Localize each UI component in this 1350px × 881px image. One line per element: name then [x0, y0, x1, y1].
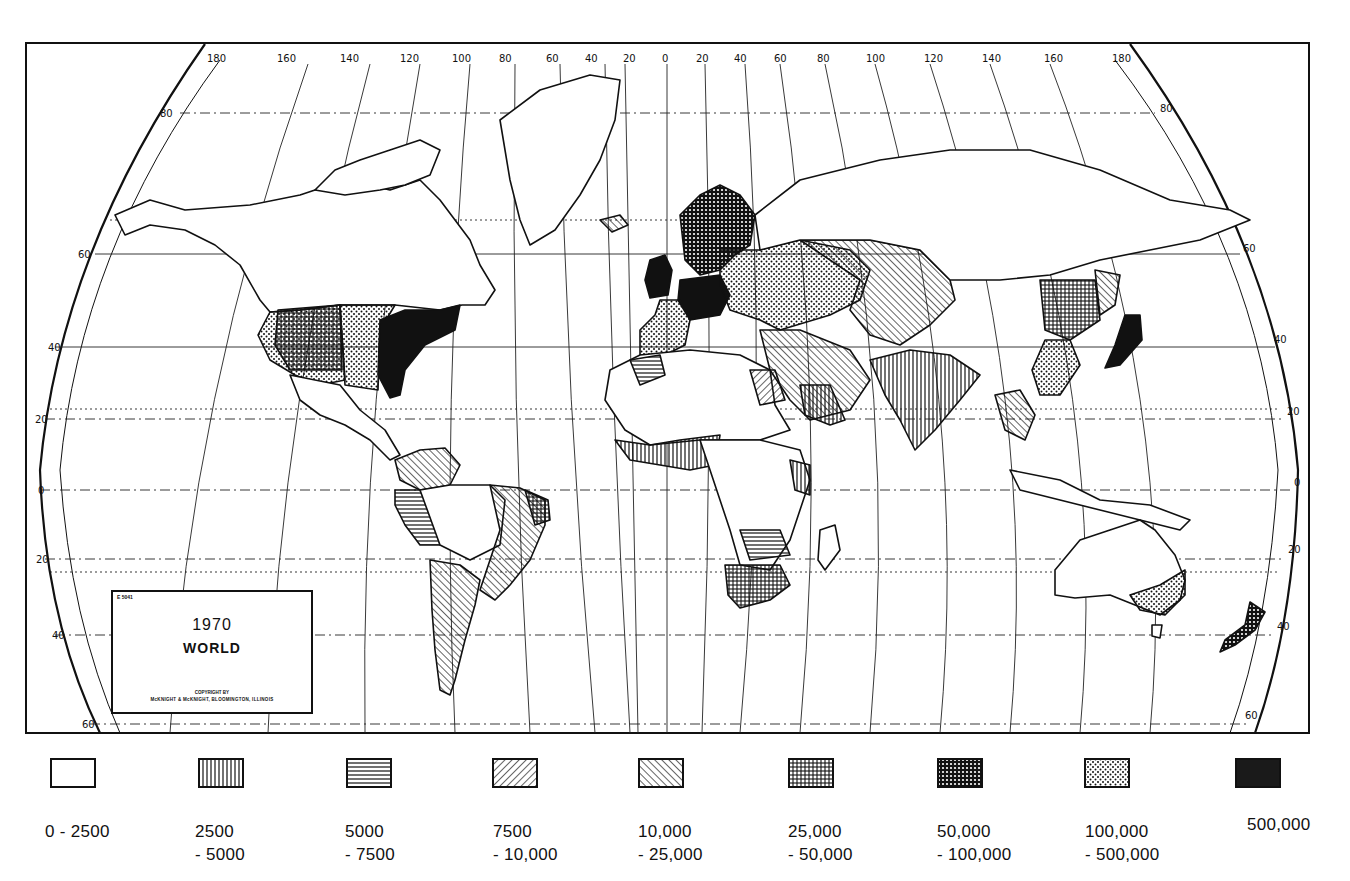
svg-text:60: 60 [78, 249, 91, 260]
swatch-grid [788, 758, 834, 788]
svg-text:20: 20 [1287, 406, 1300, 417]
swatch-light-dots [1084, 758, 1130, 788]
region-usa-mountain [275, 305, 342, 370]
swatch-solid [1235, 758, 1281, 788]
svg-text:100: 100 [866, 53, 885, 64]
svg-text:20: 20 [623, 53, 636, 64]
svg-text:40: 40 [1277, 621, 1290, 632]
region-tasmania [1152, 625, 1162, 638]
map-legend: 0 - 2500 2500 - 5000 5000 - 7500 7500 - … [0, 750, 1350, 881]
svg-text:160: 160 [277, 53, 296, 64]
copyright-line-1: COPYRIGHT BY [113, 690, 311, 695]
svg-text:40: 40 [52, 630, 65, 641]
map-title-box: E 5041 1970 WORLD COPYRIGHT BY McKNIGHT … [111, 590, 313, 714]
svg-text:140: 140 [982, 53, 1001, 64]
map-year: 1970 [113, 616, 311, 634]
svg-text:20: 20 [35, 414, 48, 425]
svg-text:40: 40 [585, 53, 598, 64]
copyright-line-2: McKNIGHT & McKNIGHT, BLOOMINGTON, ILLINO… [113, 697, 311, 702]
swatch-horizontal-lines [346, 758, 392, 788]
region-uk [645, 255, 672, 298]
svg-text:140: 140 [340, 53, 359, 64]
svg-text:60: 60 [1243, 243, 1256, 254]
svg-text:20: 20 [696, 53, 709, 64]
svg-text:80: 80 [817, 53, 830, 64]
svg-text:80: 80 [160, 108, 173, 119]
svg-text:100: 100 [452, 53, 471, 64]
svg-text:60: 60 [1245, 710, 1258, 721]
map-title: WORLD [113, 640, 311, 656]
swatch-diagonal-left [638, 758, 684, 788]
svg-text:120: 120 [924, 53, 943, 64]
swatch-blank [50, 758, 96, 788]
svg-text:80: 80 [499, 53, 512, 64]
svg-text:120: 120 [400, 53, 419, 64]
svg-text:0: 0 [1294, 477, 1300, 488]
svg-text:40: 40 [48, 342, 61, 353]
swatch-dense-dots [937, 758, 983, 788]
svg-text:180: 180 [1112, 53, 1131, 64]
svg-text:20: 20 [1288, 544, 1301, 555]
svg-text:20: 20 [36, 554, 49, 565]
svg-text:0: 0 [38, 485, 44, 496]
svg-text:60: 60 [546, 53, 559, 64]
svg-text:0: 0 [662, 53, 668, 64]
swatch-vertical-lines [198, 758, 244, 788]
svg-text:60: 60 [774, 53, 787, 64]
map-code: E 5041 [117, 594, 133, 600]
svg-text:40: 40 [734, 53, 747, 64]
svg-text:40: 40 [1274, 334, 1287, 345]
svg-text:80: 80 [1160, 103, 1173, 114]
svg-text:60: 60 [82, 719, 95, 730]
swatch-diagonal-right [492, 758, 538, 788]
svg-text:160: 160 [1044, 53, 1063, 64]
svg-text:180: 180 [207, 53, 226, 64]
